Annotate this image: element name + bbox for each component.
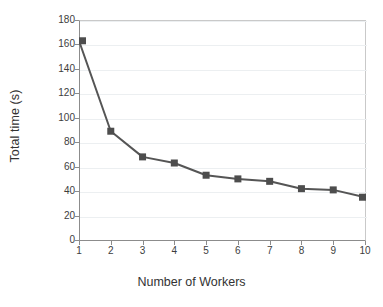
x-tick-mark — [270, 241, 271, 245]
data-point-marker — [330, 186, 337, 193]
x-tick-label: 8 — [299, 246, 305, 256]
y-tick-label: 60 — [49, 162, 75, 172]
y-tick-mark — [75, 191, 79, 192]
x-tick-mark — [333, 241, 334, 245]
data-point-marker — [139, 153, 146, 160]
x-tick-label: 7 — [267, 246, 273, 256]
y-tick-mark — [75, 44, 79, 45]
x-tick-mark — [365, 241, 366, 245]
y-tick-mark — [75, 167, 79, 168]
y-tick-mark — [75, 216, 79, 217]
y-tick-mark — [75, 69, 79, 70]
x-tick-label: 2 — [108, 246, 114, 256]
data-point-marker — [298, 185, 305, 192]
chart-figure: Total time (s) 180160140120100806040200 … — [0, 0, 383, 307]
y-tick-mark — [75, 118, 79, 119]
data-point-marker — [203, 172, 210, 179]
y-axis-title: Total time (s) — [2, 0, 28, 252]
x-tick-mark — [174, 241, 175, 245]
x-tick-mark — [111, 241, 112, 245]
data-point-marker — [79, 37, 86, 44]
x-axis-title-label: Number of Workers — [137, 275, 245, 289]
x-tick-label: 6 — [235, 246, 241, 256]
y-axis-tick-labels: 180160140120100806040200 — [45, 0, 75, 261]
x-tick-label: 9 — [330, 246, 336, 256]
x-tick-mark — [238, 241, 239, 245]
y-tick-label: 100 — [49, 113, 75, 123]
y-tick-label: 180 — [49, 15, 75, 25]
x-tick-label: 3 — [140, 246, 146, 256]
x-tick-label: 4 — [172, 246, 178, 256]
plot-area — [79, 20, 366, 241]
y-tick-mark — [75, 142, 79, 143]
data-point-marker — [234, 175, 241, 182]
y-tick-mark — [75, 93, 79, 94]
data-point-marker — [171, 160, 178, 167]
y-tick-label: 80 — [49, 137, 75, 147]
x-tick-label: 5 — [203, 246, 209, 256]
series-line — [79, 41, 365, 197]
y-tick-label: 20 — [49, 211, 75, 221]
x-axis-tick-labels: 12345678910 — [79, 246, 366, 260]
y-tick-label: 0 — [49, 235, 75, 245]
x-tick-mark — [143, 241, 144, 245]
y-tick-label: 160 — [49, 39, 75, 49]
data-point-marker — [359, 194, 366, 201]
y-tick-mark — [75, 20, 79, 21]
data-point-marker — [107, 128, 114, 135]
x-tick-mark — [206, 241, 207, 245]
y-tick-label: 140 — [49, 64, 75, 74]
y-axis-title-label: Total time (s) — [8, 90, 22, 163]
x-axis-title: Number of Workers — [0, 275, 383, 289]
x-tick-mark — [79, 241, 80, 245]
series-line-total-time — [79, 20, 366, 241]
x-tick-label: 10 — [359, 246, 370, 256]
y-tick-label: 120 — [49, 88, 75, 98]
x-tick-label: 1 — [76, 246, 82, 256]
x-tick-mark — [301, 241, 302, 245]
data-point-marker — [266, 178, 273, 185]
y-tick-label: 40 — [49, 186, 75, 196]
